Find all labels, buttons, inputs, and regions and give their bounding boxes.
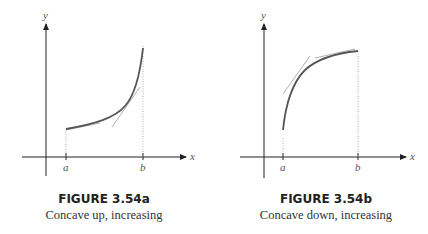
figure-b-caption: Concave down, increasing	[226, 208, 426, 223]
figure-a-title: FIGURE 3.54a	[4, 192, 204, 206]
tick-label-a: a	[280, 161, 286, 173]
concave-down-curve	[283, 51, 358, 130]
x-axis-label: x	[189, 150, 195, 162]
figure-a-caption: Concave up, increasing	[4, 208, 204, 223]
tick-label-b: b	[140, 161, 146, 173]
tick-label-b: b	[355, 161, 361, 173]
figure-b-title: FIGURE 3.54b	[226, 192, 426, 206]
x-axis-label: x	[409, 150, 415, 162]
figure-b-graph: y x a b	[240, 9, 415, 178]
concave-up-curve	[66, 48, 143, 129]
figure-a-graph: y x a b	[22, 9, 195, 176]
tangent-line-2	[315, 49, 355, 58]
y-axis-label: y	[42, 9, 48, 21]
tangent-line-1	[283, 56, 310, 94]
tick-label-a: a	[63, 161, 69, 173]
tangent-line-2	[112, 87, 140, 127]
y-axis-label: y	[260, 9, 266, 21]
